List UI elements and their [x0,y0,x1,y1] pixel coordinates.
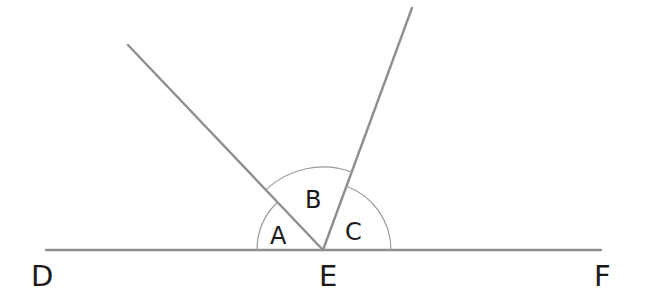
point-label-f: F [594,259,611,293]
point-label-d: D [31,259,53,293]
angle-label-c: C [345,218,362,246]
point-label-e: E [319,259,337,293]
angle-label-b: B [305,186,321,214]
ray-left [128,45,323,250]
ray-right [323,8,412,250]
angle-diagram: A B C D E F [0,0,656,300]
angle-label-a: A [270,222,287,250]
